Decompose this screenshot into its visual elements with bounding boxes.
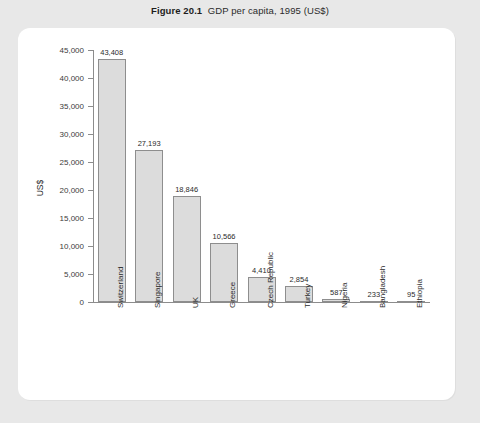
y-axis-tick-label: 15,000 xyxy=(24,214,84,223)
x-axis-category-label: Switzerland xyxy=(116,267,125,308)
y-axis-tick-mark xyxy=(88,246,93,247)
bar-value-label: 18,846 xyxy=(157,185,217,194)
y-axis-tick-mark xyxy=(88,78,93,79)
y-axis-tick-mark xyxy=(88,274,93,275)
figure-container: Figure 20.1 GDP per capita, 1995 (US$) U… xyxy=(0,0,480,423)
y-axis-line xyxy=(93,50,94,302)
y-axis-tick-label: 25,000 xyxy=(24,158,84,167)
y-axis-tick-label: 40,000 xyxy=(24,74,84,83)
x-axis-category-label: UK xyxy=(191,297,200,308)
y-axis-tick-mark xyxy=(88,106,93,107)
y-axis-tick-label: 10,000 xyxy=(24,242,84,251)
y-axis-tick-mark xyxy=(88,218,93,219)
x-axis-category-label: Greece xyxy=(228,282,237,308)
bar-value-label: 43,408 xyxy=(82,48,142,57)
x-axis-category-label: Bangladesh xyxy=(378,266,387,308)
x-axis-category-label: Ethiopia xyxy=(415,279,424,308)
y-axis-tick-mark xyxy=(88,302,93,303)
y-axis-tick-mark xyxy=(88,162,93,163)
y-axis-tick-label: 30,000 xyxy=(24,130,84,139)
bar-value-label: 10,566 xyxy=(194,232,254,241)
bar-value-label: 4,410 xyxy=(232,266,292,275)
y-axis-tick-mark xyxy=(88,134,93,135)
bar-value-label: 95 xyxy=(381,290,441,299)
y-axis-tick-label: 35,000 xyxy=(24,102,84,111)
y-axis-tick-label: 5,000 xyxy=(24,270,84,279)
y-axis-tick-mark xyxy=(88,190,93,191)
x-axis-category-label: Singapore xyxy=(153,272,162,308)
bar-chart: US$ 45,00040,00035,00030,00025,00020,000… xyxy=(0,0,480,423)
bar xyxy=(173,196,201,302)
y-axis-tick-label: 0 xyxy=(24,298,84,307)
y-axis-tick-label: 45,000 xyxy=(24,46,84,55)
bar-value-label: 2,854 xyxy=(269,275,329,284)
y-axis-tick-label: 20,000 xyxy=(24,186,84,195)
bar-value-label: 27,193 xyxy=(119,139,179,148)
bar xyxy=(98,59,126,302)
